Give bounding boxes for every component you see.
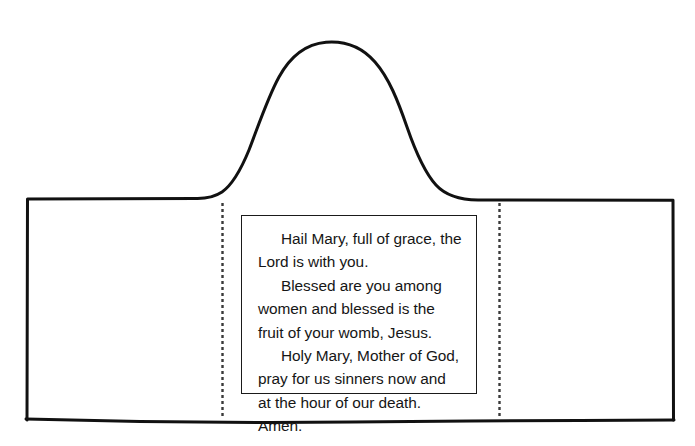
prayer-paragraph-1: Hail Mary, full of grace, the Lord is wi… <box>258 227 462 274</box>
prayer-paragraph-2: Blessed are you among women and blessed … <box>258 274 462 344</box>
template-canvas: Hail Mary, full of grace, the Lord is wi… <box>0 0 695 446</box>
prayer-text-container: Hail Mary, full of grace, the Lord is wi… <box>258 227 462 438</box>
prayer-paragraph-3: Holy Mary, Mother of God, pray for us si… <box>258 344 462 438</box>
prayer-text-box: Hail Mary, full of grace, the Lord is wi… <box>241 215 477 394</box>
